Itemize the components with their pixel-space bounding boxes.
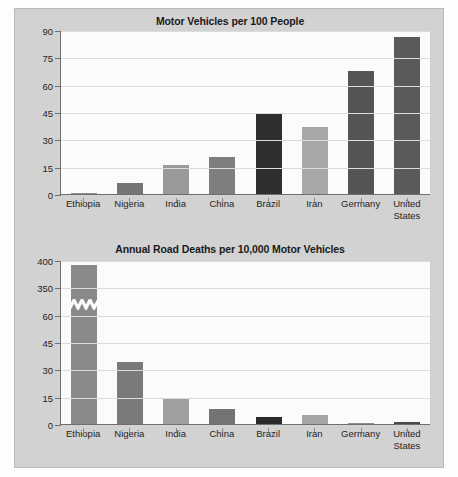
chart-road-deaths: Annual Road Deaths per 10,000 Motor Vehi…: [15, 239, 445, 469]
y-axis-tick-label: 45: [13, 108, 53, 119]
y-axis-tick: [55, 398, 61, 399]
bar: [209, 157, 235, 194]
bar: [348, 71, 374, 194]
x-axis-tick: [407, 428, 408, 432]
gridline: [61, 398, 430, 399]
bar: [256, 417, 282, 424]
gridline: [61, 113, 430, 114]
y-axis-tick-label: 0: [13, 190, 53, 201]
y-axis-tick-label: 60: [13, 310, 53, 321]
bar: [394, 422, 420, 424]
y-axis-tick-label: 400: [13, 256, 53, 267]
bar: [117, 362, 143, 424]
bar: [71, 193, 97, 195]
x-axis-tick: [361, 428, 362, 432]
gridline: [61, 370, 430, 371]
x-axis-tick: [83, 198, 84, 202]
y-axis-tick-label: 90: [13, 26, 53, 37]
gridline: [61, 86, 430, 87]
y-axis-tick-label: 75: [13, 53, 53, 64]
axis-break-zigzag-icon: [70, 296, 98, 307]
gridline: [61, 31, 430, 32]
plot-area-bottom: 015304560350400: [60, 261, 430, 425]
y-axis-tick: [55, 261, 61, 262]
y-axis-tick-label: 30: [13, 135, 53, 146]
x-axis-labels-bottom: EthiopiaNigeriaIndiaChinaBrazilIranGerma…: [60, 428, 430, 451]
y-axis-tick: [55, 31, 61, 32]
chart-title-bottom: Annual Road Deaths per 10,000 Motor Vehi…: [15, 243, 445, 255]
y-axis-tick: [55, 343, 61, 344]
bar: [302, 127, 328, 194]
figure-panel: Motor Vehicles per 100 People 0153045607…: [14, 8, 444, 468]
bar: [302, 415, 328, 424]
x-axis-tick: [129, 428, 130, 432]
bar: [163, 165, 189, 194]
bar: [256, 114, 282, 194]
chart-title-top: Motor Vehicles per 100 People: [15, 15, 445, 27]
y-axis-tick: [55, 168, 61, 169]
x-axis-tick: [314, 428, 315, 432]
x-axis-tick: [176, 428, 177, 432]
x-axis-tick: [222, 198, 223, 202]
y-axis-tick: [55, 316, 61, 317]
x-axis-tick: [407, 198, 408, 202]
y-axis-tick-label: 350: [13, 283, 53, 294]
y-axis-tick: [55, 288, 61, 289]
gridline: [61, 140, 430, 141]
plot-area-top: 0153045607590: [60, 31, 430, 195]
y-axis-tick: [55, 58, 61, 59]
bar: [163, 398, 189, 424]
y-axis-tick: [55, 113, 61, 114]
gridline: [61, 316, 430, 317]
y-axis-tick-label: 60: [13, 80, 53, 91]
y-axis-tick: [55, 195, 61, 196]
y-axis-tick-label: 45: [13, 338, 53, 349]
y-axis-tick-label: 15: [13, 162, 53, 173]
chart-motor-vehicles: Motor Vehicles per 100 People 0153045607…: [15, 9, 445, 239]
y-axis-tick-label: 0: [13, 420, 53, 431]
gridline: [61, 288, 430, 289]
x-axis-tick: [83, 428, 84, 432]
bar: [348, 423, 374, 425]
gridline: [61, 58, 430, 59]
x-axis-tick: [222, 428, 223, 432]
bar: [209, 409, 235, 424]
x-axis-tick: [129, 198, 130, 202]
x-axis-tick: [268, 428, 269, 432]
y-axis-tick: [55, 370, 61, 371]
x-axis-tick: [176, 198, 177, 202]
x-axis-labels-top: EthiopiaNigeriaIndiaChinaBrazilIranGerma…: [60, 198, 430, 221]
y-axis-tick-label: 30: [13, 365, 53, 376]
x-axis-tick: [268, 198, 269, 202]
bar: [117, 183, 143, 194]
x-axis-tick: [314, 198, 315, 202]
y-axis-tick-label: 15: [13, 392, 53, 403]
gridline: [61, 343, 430, 344]
y-axis-tick: [55, 425, 61, 426]
gridline: [61, 168, 430, 169]
y-axis-tick: [55, 140, 61, 141]
figure-root: Motor Vehicles per 100 People 0153045607…: [0, 0, 458, 477]
y-axis-tick: [55, 86, 61, 87]
x-axis-tick: [361, 198, 362, 202]
gridline: [61, 261, 430, 262]
bar: [394, 37, 420, 194]
